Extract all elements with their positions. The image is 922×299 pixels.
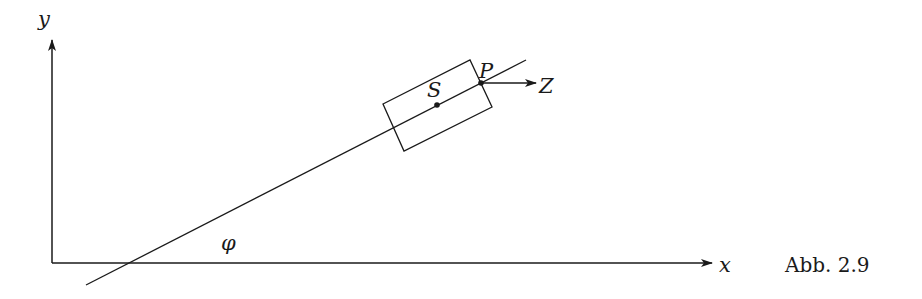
figure-caption: Abb. 2.9 (784, 253, 870, 277)
y-axis-label: y (37, 7, 51, 31)
x-axis-label: x (719, 253, 731, 277)
label-s: S (427, 78, 441, 102)
center-point-s (434, 102, 440, 108)
inclined-line (86, 60, 526, 285)
label-phi: φ (221, 231, 236, 255)
label-p: P (478, 59, 494, 83)
label-z: Z (538, 74, 554, 98)
diagram-canvas: y x S P Z φ Abb. 2.9 (0, 0, 922, 299)
